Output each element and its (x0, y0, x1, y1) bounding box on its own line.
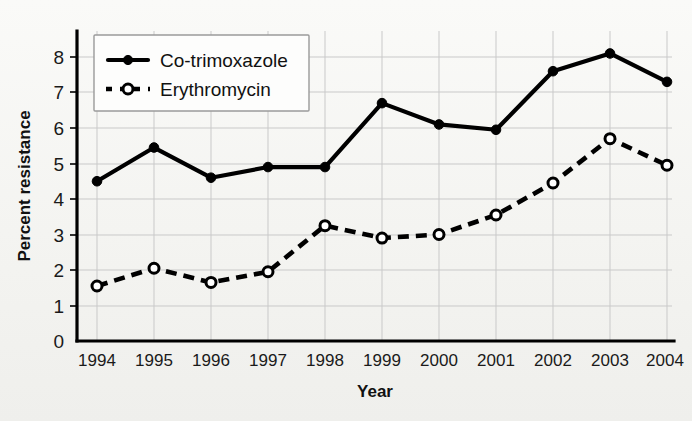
chart-page: 8 7 6 5 4 3 2 1 0 Percent resistance 199… (0, 0, 692, 421)
data-point (548, 66, 558, 76)
x-axis-title: Year (357, 382, 393, 401)
y-tick-label: 1 (53, 296, 64, 317)
x-tick-label: 1996 (192, 351, 230, 370)
data-point (92, 281, 102, 291)
data-point (206, 277, 216, 287)
chart-legend: Co-trimoxazole Erythromycin (94, 35, 309, 111)
y-tick-label: 5 (53, 154, 64, 175)
data-point (491, 125, 501, 135)
data-point (320, 162, 330, 172)
data-point (662, 160, 672, 170)
x-tick-labels: 1994 1995 1996 1997 1998 1999 2000 2001 … (78, 351, 684, 370)
y-tick-label: 7 (53, 82, 64, 103)
legend-label: Co-trimoxazole (160, 50, 288, 71)
data-point (434, 120, 444, 130)
legend-marker-open-circle (123, 84, 133, 94)
y-tick-label: 4 (53, 189, 64, 210)
data-point (263, 162, 273, 172)
y-tick-label: 2 (53, 260, 64, 281)
data-point (149, 143, 159, 153)
x-tick-label: 1994 (78, 351, 116, 370)
data-point (377, 98, 387, 108)
data-point (662, 77, 672, 87)
x-tick-label: 1997 (249, 351, 287, 370)
data-point (605, 134, 615, 144)
legend-label: Erythromycin (160, 79, 271, 100)
x-tick-label: 2004 (646, 351, 684, 370)
y-tick-labels: 8 7 6 5 4 3 2 1 0 (53, 47, 64, 352)
data-point (548, 178, 558, 188)
y-tick-label: 0 (53, 331, 64, 352)
x-tick-label: 1995 (135, 351, 173, 370)
data-point (263, 267, 273, 277)
x-tick-label: 2003 (591, 351, 629, 370)
x-tick-label: 1999 (363, 351, 401, 370)
y-tick-label: 3 (53, 225, 64, 246)
x-tick-label: 2000 (420, 351, 458, 370)
data-point (434, 230, 444, 240)
x-tick-label: 2001 (477, 351, 515, 370)
data-point (92, 176, 102, 186)
x-tick-label: 1998 (306, 351, 344, 370)
y-tick-label: 6 (53, 118, 64, 139)
data-point (605, 49, 615, 59)
data-point (491, 210, 501, 220)
legend-marker-filled-circle (123, 55, 132, 64)
line-chart: 8 7 6 5 4 3 2 1 0 Percent resistance 199… (0, 0, 692, 421)
data-point (377, 233, 387, 243)
data-point (320, 221, 330, 231)
x-tick-label: 2002 (534, 351, 572, 370)
y-axis-title: Percent resistance (15, 110, 34, 261)
data-point (206, 173, 216, 183)
data-point (149, 263, 159, 273)
y-tick-label: 8 (53, 47, 64, 68)
